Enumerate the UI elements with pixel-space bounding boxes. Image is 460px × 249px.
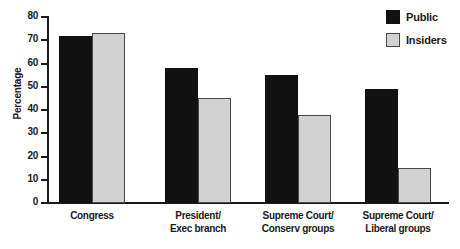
bar-public (59, 36, 92, 203)
bar-public (165, 68, 198, 203)
y-axis-tick (41, 39, 48, 41)
y-axis-tick-label: 10 (0, 173, 38, 184)
y-axis-tick-label: 70 (0, 33, 38, 44)
x-axis-label: Supreme Court/Liberal groups (338, 209, 458, 235)
x-axis-label: Congress (32, 209, 152, 222)
y-axis-tick (41, 16, 48, 18)
bar-public (265, 75, 298, 203)
y-axis-tick (41, 156, 48, 158)
bar-group (59, 17, 125, 203)
x-axis-label-line1: Supreme Court/ (263, 210, 334, 221)
bar-group (265, 17, 331, 203)
x-axis-label-line1: Congress (70, 210, 114, 221)
y-axis-tick-label: 50 (0, 80, 38, 91)
legend: Public Insiders (386, 10, 447, 56)
legend-swatch-insiders-icon (386, 33, 400, 47)
legend-label-insiders: Insiders (406, 34, 447, 46)
legend-label-public: Public (406, 11, 438, 23)
legend-swatch-public-icon (386, 10, 400, 24)
legend-item-public: Public (386, 10, 447, 24)
y-axis-tick-label: 20 (0, 150, 38, 161)
y-axis-tick-label: 30 (0, 126, 38, 137)
y-axis-tick-label: 60 (0, 57, 38, 68)
legend-item-insiders: Insiders (386, 33, 447, 47)
y-axis-tick (41, 109, 48, 111)
y-axis-tick-label: 40 (0, 103, 38, 114)
x-axis-label-line1: President/ (175, 210, 220, 221)
bar-insiders (298, 115, 331, 203)
y-axis-tick (41, 86, 48, 88)
x-axis-label-line2: Liberal groups (338, 222, 458, 235)
bar-public (365, 89, 398, 203)
y-axis-tick-label: 80 (0, 10, 38, 21)
bar-insiders (198, 98, 231, 203)
y-axis-tick (41, 179, 48, 181)
y-axis-tick-label: 0 (0, 196, 38, 207)
bar-chart: Percentage 01020304050607080 CongressPre… (0, 0, 460, 249)
bar-insiders (398, 168, 431, 203)
y-axis-tick (41, 132, 48, 134)
bar-insiders (92, 33, 125, 203)
x-axis-label-line1: Supreme Court/ (363, 210, 434, 221)
y-axis-tick (41, 63, 48, 65)
bar-group (165, 17, 231, 203)
y-axis-tick (41, 202, 48, 204)
